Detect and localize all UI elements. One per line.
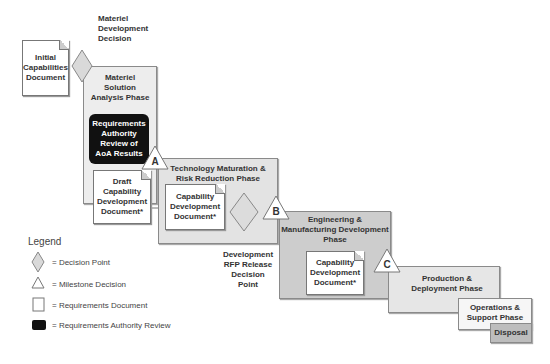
legend-requirements-authority-review: = Requirements Authority Review bbox=[52, 321, 171, 330]
legend-triangle-icon bbox=[32, 277, 44, 288]
legend-document-icon bbox=[33, 298, 44, 311]
legend-milestone-decision: = Milestone Decision bbox=[52, 280, 126, 289]
legend-decision-point: = Decision Point bbox=[52, 258, 110, 267]
legend-requirements-document: = Requirements Document bbox=[52, 301, 147, 310]
legend-review-icon bbox=[32, 320, 46, 330]
legend-diamond-icon bbox=[32, 252, 44, 272]
